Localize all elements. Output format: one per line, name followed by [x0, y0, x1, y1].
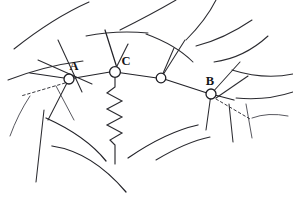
spiral-thread-arc: [128, 125, 198, 158]
spiral-thread-arc: [120, 0, 176, 30]
node-b-ring[interactable]: [206, 89, 216, 99]
radial-thread: [229, 104, 233, 142]
spider-web-figure: A C B: [0, 0, 293, 208]
node-label-group: A C B: [69, 54, 214, 88]
radial-thread: [216, 76, 248, 98]
node-b-label: B: [206, 74, 214, 88]
zigzag-thread-group: [107, 78, 122, 164]
zigzag-thread: [107, 78, 122, 164]
node-mid-ring[interactable]: [156, 73, 166, 83]
spiral-thread-arc: [14, 2, 89, 49]
radial-thread: [246, 104, 252, 138]
radial-thread: [105, 30, 117, 68]
spiral-thread-arc: [232, 70, 293, 76]
spiral-thread-arc: [10, 96, 30, 136]
radial-thread-group: [36, 30, 252, 182]
node-a-ring[interactable]: [64, 74, 74, 84]
spiral-thread-arc: [196, 20, 252, 46]
spiral-thread-group: [8, 0, 293, 192]
radial-thread: [161, 40, 185, 78]
radial-thread: [56, 86, 74, 120]
dashed-thread-a: [21, 83, 65, 96]
radial-thread: [36, 110, 44, 182]
spiral-thread-arc: [186, 0, 216, 40]
spiral-thread-arc: [86, 32, 148, 36]
radial-thread: [211, 62, 240, 94]
node-c-label: C: [121, 54, 130, 68]
spiral-thread-arc: [214, 36, 268, 62]
spiral-thread-arc: [236, 92, 293, 99]
web-drawing-canvas: A C B: [0, 0, 293, 208]
spiral-thread-arc: [46, 118, 106, 161]
node-c-ring[interactable]: [110, 67, 121, 78]
node-group: [64, 67, 216, 99]
dashed-thread-b: [216, 99, 250, 119]
node-a-label: A: [69, 59, 78, 73]
spiral-thread-arc: [156, 137, 210, 160]
spiral-thread-arc: [252, 114, 288, 118]
